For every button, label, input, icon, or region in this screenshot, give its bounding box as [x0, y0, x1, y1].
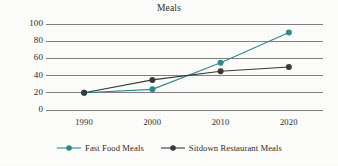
plot-area [0, 0, 338, 166]
legend-label: Fast Food Meals [85, 143, 144, 153]
data-point [218, 68, 224, 74]
data-point [218, 60, 224, 66]
y-axis-tick-label: 60 [17, 52, 43, 62]
y-axis-tick-label: 0 [17, 104, 43, 114]
x-axis-tick-label: 2010 [198, 117, 244, 127]
x-axis-tick-label: 2020 [266, 117, 312, 127]
y-axis-tick-label: 20 [17, 87, 43, 97]
legend-marker-icon [160, 143, 186, 153]
data-point [149, 86, 155, 92]
y-axis-tick-label: 100 [17, 18, 43, 28]
data-point [149, 77, 155, 83]
data-point [286, 64, 292, 70]
legend-entry[interactable]: Fast Food Meals [56, 143, 144, 153]
y-axis-tick-label: 80 [17, 35, 43, 45]
legend-label: Sitdown Restaurant Meals [189, 143, 282, 153]
legend-entry[interactable]: Sitdown Restaurant Meals [160, 143, 282, 153]
legend-marker-icon [56, 143, 82, 153]
x-axis-tick-label: 2000 [129, 117, 175, 127]
data-point [286, 30, 292, 36]
y-axis-tick-label: 40 [17, 70, 43, 80]
data-point [81, 90, 87, 96]
meals-line-chart: Meals 020406080100 1990200020102020 Fast… [0, 0, 338, 166]
x-axis-tick-label: 1990 [61, 117, 107, 127]
series-line-1 [84, 67, 289, 93]
chart-legend: Fast Food MealsSitdown Restaurant Meals [0, 143, 338, 153]
series-markers-group [81, 30, 292, 96]
